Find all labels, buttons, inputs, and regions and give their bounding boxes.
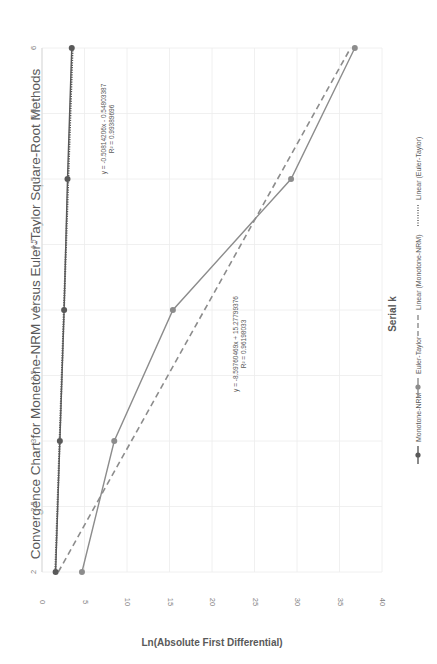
x-tick-label: 2 [29,570,38,574]
data-point-marker [111,438,117,444]
y-tick-label: 35 [336,598,345,606]
legend-swatch-marker [415,452,420,457]
chart-frame: Convergence Chart for Monetone-NRM versu… [0,0,437,664]
data-point-marker [65,176,71,182]
data-point-marker [79,569,85,575]
x-tick-label: 4 [29,308,38,312]
y-tick-label: 10 [123,598,132,606]
data-point-marker [61,307,67,313]
data-point-marker [288,176,294,182]
data-point-marker [170,307,176,313]
chart-title: Convergence Chart for Monetone-NRM versu… [28,68,43,559]
legend: Monotone-NRMEuler-TaylorLinear (Monotone… [415,137,423,464]
legend-swatch-marker [415,384,420,389]
legend-label: Monotone-NRM [415,392,422,442]
y-tick-label: 20 [208,598,217,606]
legend-label: Linear (Euler-Taylor) [415,137,423,200]
data-point-marker [57,438,63,444]
x-axis-title: Serial k [387,296,398,332]
trend-r2-monotone: R² = 0.99389696 [108,104,115,153]
data-point-marker [352,45,358,51]
x-tick-label: 3 [29,439,38,443]
x-tick-label: 5 [29,177,38,181]
y-tick-label: 5 [81,600,90,604]
x-tick-label: 2.5 [29,501,38,511]
y-tick-label: 40 [378,598,387,606]
chart: Convergence Chart for Monetone-NRM versu… [0,0,437,664]
legend-label: Euler-Taylor [415,336,423,374]
trend-equation-monotone: y = -0.50814206x - 0.54803387 [100,83,108,174]
y-tick-label: 15 [166,598,175,606]
data-point-marker [53,569,59,575]
trend-r2-euler: R² = 0.96198033 [240,319,247,368]
legend-label: Linear (Monotone-NRM) [415,235,423,310]
trend-equation-euler: y = -8.59760469x + 15.27799376 [232,296,240,392]
data-point-marker [69,45,75,51]
y-axis-title: Ln(Absolute First Differential) [141,637,282,648]
x-tick-label: 6 [29,46,38,50]
y-axis-ticks: 0510152025303540 [38,598,387,606]
y-tick-label: 25 [251,598,260,606]
x-tick-label: 4.5 [29,239,38,249]
y-tick-label: 30 [293,598,302,606]
x-tick-label: 5.5 [29,108,38,118]
y-tick-label: 0 [38,600,47,604]
gridlines [42,48,382,572]
x-tick-label: 3.5 [29,370,38,380]
